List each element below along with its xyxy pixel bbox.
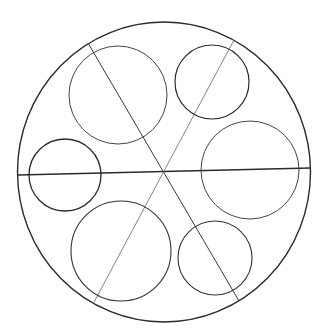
background bbox=[0, 0, 325, 333]
circle-sector-diagram bbox=[0, 0, 325, 333]
